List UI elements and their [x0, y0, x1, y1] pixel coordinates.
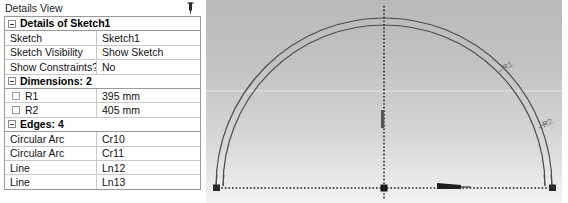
dimension-checkbox[interactable] — [12, 106, 20, 114]
group-header-edges[interactable]: Edges: 4 — [5, 118, 200, 132]
collapse-icon[interactable] — [8, 120, 16, 128]
details-view-screen: Details View Details of Sketch1 Sketch S… — [0, 0, 568, 203]
axis-midpoint-marker — [381, 110, 384, 128]
group-label: Dimensions: 2 — [20, 75, 92, 88]
table-row[interactable]: Line Ln13 — [5, 175, 200, 189]
collapse-icon[interactable] — [8, 20, 16, 28]
pin-icon[interactable] — [185, 2, 196, 14]
sketch-graphics — [206, 0, 562, 203]
origin-point-marker[interactable] — [381, 185, 388, 192]
property-value[interactable]: Ln12 — [97, 161, 200, 174]
table-row[interactable]: Line Ln12 — [5, 161, 200, 175]
property-value[interactable]: Cr10 — [97, 132, 200, 145]
table-row[interactable]: Show Constraints? No — [5, 60, 200, 74]
property-name: Sketch Visibility — [5, 46, 97, 59]
left-endpoint-marker[interactable] — [213, 185, 220, 192]
group-row-name: Edges: 4 — [5, 118, 200, 131]
details-view-panel: Details View Details of Sketch1 Sketch S… — [0, 0, 206, 203]
table-row[interactable]: Sketch Visibility Show Sketch — [5, 46, 200, 60]
property-value[interactable]: Ln13 — [97, 175, 200, 188]
dimension-checkbox[interactable] — [12, 92, 20, 100]
group-label: Details of Sketch1 — [20, 17, 110, 30]
property-name: Line — [5, 175, 97, 188]
property-value[interactable]: 405 mm — [97, 103, 200, 116]
group-row-name: Dimensions: 2 — [5, 75, 200, 88]
property-value[interactable]: No — [97, 60, 200, 73]
property-name: Line — [5, 161, 97, 174]
property-name: Circular Arc — [5, 132, 97, 145]
property-name-cell: R2 — [5, 103, 97, 116]
property-name: Show Constraints? — [5, 60, 97, 73]
property-name: R1 — [25, 90, 38, 102]
table-row[interactable]: Sketch Sketch1 — [5, 31, 200, 45]
property-name: Sketch — [5, 31, 97, 44]
page-title: Details View — [5, 0, 63, 16]
group-label: Edges: 4 — [20, 118, 64, 131]
property-name: R2 — [25, 104, 38, 116]
selected-segment-marker[interactable] — [437, 183, 471, 189]
group-header-dimensions[interactable]: Dimensions: 2 — [5, 75, 200, 89]
panel-header: Details View — [0, 0, 206, 16]
table-row[interactable]: R2 405 mm — [5, 103, 200, 117]
property-name: Circular Arc — [5, 147, 97, 160]
collapse-icon[interactable] — [8, 77, 16, 85]
group-row-name: Details of Sketch1 — [5, 17, 200, 30]
table-row[interactable]: R1 395 mm — [5, 89, 200, 103]
property-value[interactable]: Show Sketch — [97, 46, 200, 59]
group-header-details-of-sketch[interactable]: Details of Sketch1 — [5, 17, 200, 31]
right-endpoint-marker[interactable] — [549, 185, 556, 192]
cad-viewport[interactable]: R1 R2 — [206, 0, 562, 203]
table-row[interactable]: Circular Arc Cr11 — [5, 147, 200, 161]
table-row[interactable]: Circular Arc Cr10 — [5, 132, 200, 146]
property-name-cell: R1 — [5, 89, 97, 102]
property-value[interactable]: Sketch1 — [97, 31, 200, 44]
property-value[interactable]: Cr11 — [97, 147, 200, 160]
property-grid: Details of Sketch1 Sketch Sketch1 Sketch… — [4, 16, 201, 190]
property-value[interactable]: 395 mm — [97, 89, 200, 102]
